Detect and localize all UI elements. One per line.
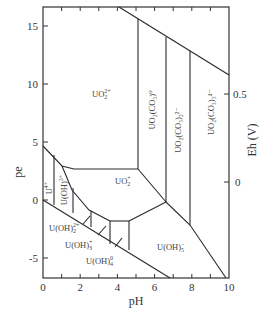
svg-text:15: 15	[27, 20, 39, 32]
svg-text:-5: -5	[29, 252, 39, 264]
label-u4plus: U4+	[43, 181, 54, 194]
pe-ph-diagram: 0 2 4 6 8 10 pH 15 10 5 0 -5 pe 0.5 0 Eh…	[0, 0, 270, 314]
label-uo2-co3-3: UO₂(CO₃)₃⁴⁻	[206, 89, 216, 135]
x-axis-label: pH	[129, 294, 144, 308]
y-axis-label-eh: Eh (V)	[245, 124, 259, 157]
svg-text:0: 0	[33, 194, 39, 206]
svg-text:5: 5	[33, 136, 39, 148]
svg-text:4: 4	[115, 281, 121, 293]
label-uo2-2plus: UO22+	[92, 88, 111, 100]
svg-text:8: 8	[189, 281, 195, 293]
right-ticks	[224, 94, 229, 182]
svg-text:10: 10	[224, 281, 236, 293]
label-uo2-plus: UO2+	[115, 175, 131, 187]
label-u-oh5-minus: U(OH)5−	[157, 241, 185, 253]
label-u-oh3-plus: U(OH)3+	[65, 239, 93, 251]
label-u-oh2-2plus: U(OH)22+	[49, 222, 80, 234]
label-uo2-co3-0: UO₂(CO₃)⁰	[147, 90, 157, 130]
x-tick-labels: 0 2 4 6 8 10	[40, 281, 235, 293]
svg-text:0.5: 0.5	[233, 88, 247, 100]
svg-text:2: 2	[77, 281, 83, 293]
svg-text:6: 6	[152, 281, 158, 293]
phase-boundaries	[43, 7, 229, 278]
left-ticks	[43, 26, 48, 258]
svg-text:0: 0	[40, 281, 46, 293]
label-uo2-co3-2: UO₂(CO₃)₂²⁻	[173, 107, 183, 153]
label-u-oh4-0: U(OH)40	[86, 255, 113, 267]
y-axis-label-pe: pe	[11, 166, 25, 177]
svg-text:10: 10	[27, 78, 39, 90]
svg-text:0: 0	[235, 176, 241, 188]
y-left-tick-labels: 15 10 5 0 -5	[27, 20, 39, 264]
plot-frame	[43, 7, 229, 278]
